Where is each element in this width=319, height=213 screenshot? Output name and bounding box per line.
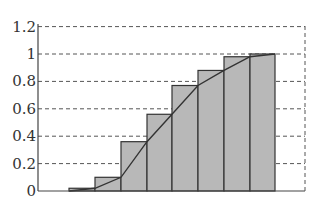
bars: [69, 54, 275, 191]
bar: [250, 54, 275, 191]
y-tick-label: 0.8: [12, 72, 36, 90]
y-tick-label: 0.2: [12, 155, 36, 173]
bar: [121, 142, 147, 191]
y-tick-label: 1.2: [12, 18, 36, 36]
y-tick-label: 0: [26, 182, 36, 200]
bar: [172, 86, 198, 191]
bar: [198, 70, 224, 191]
cumulative-histogram-chart: 00.20.40.60.811.2: [0, 0, 319, 213]
y-tick-label: 0.6: [12, 100, 36, 118]
y-axis-tick-labels: 00.20.40.60.811.2: [12, 18, 36, 200]
bar: [147, 114, 172, 191]
y-tick-label: 0.4: [12, 127, 36, 145]
bar: [224, 57, 250, 191]
y-tick-label: 1: [26, 45, 36, 63]
